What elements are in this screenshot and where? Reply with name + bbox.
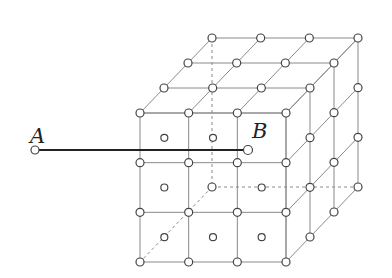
front-node xyxy=(282,109,290,117)
lattice-edge xyxy=(140,38,212,113)
cubic-lattice-figure xyxy=(0,0,392,278)
top-node xyxy=(257,84,265,92)
face-center-node xyxy=(258,234,265,241)
top-node xyxy=(257,34,265,42)
face-center-node xyxy=(161,134,168,141)
right-node xyxy=(354,84,362,92)
front-node xyxy=(185,208,193,216)
front-node xyxy=(185,159,193,167)
front-node xyxy=(233,159,241,167)
lattice-edge xyxy=(286,38,358,113)
hidden-edge xyxy=(140,187,212,262)
right-node xyxy=(330,158,338,166)
front-node xyxy=(136,159,144,167)
front-node xyxy=(185,109,193,117)
top-node xyxy=(233,59,241,67)
top-node xyxy=(160,84,168,92)
face-center-node xyxy=(161,234,168,241)
lattice-edge xyxy=(237,38,309,113)
right-node xyxy=(306,134,314,142)
right-node xyxy=(354,183,362,191)
face-center-node xyxy=(161,184,168,191)
top-node xyxy=(184,59,192,67)
point-b xyxy=(244,146,253,155)
top-node xyxy=(306,84,314,92)
label-b: B xyxy=(252,121,267,142)
lattice-edge xyxy=(286,88,358,163)
right-node xyxy=(306,233,314,241)
lattice-edge xyxy=(286,137,358,212)
top-node xyxy=(354,34,362,42)
top-node xyxy=(305,34,313,42)
lattice-diagram: A B xyxy=(0,0,392,278)
front-node xyxy=(282,258,290,266)
front-node xyxy=(136,258,144,266)
hidden-corner-node xyxy=(208,183,216,191)
right-node xyxy=(306,183,314,191)
front-node xyxy=(233,109,241,117)
label-a: A xyxy=(30,126,45,147)
top-node xyxy=(209,84,217,92)
right-node xyxy=(354,133,362,141)
front-node xyxy=(233,258,241,266)
lattice-edge xyxy=(189,38,261,113)
front-node xyxy=(233,208,241,216)
right-node xyxy=(330,109,338,117)
front-node xyxy=(282,208,290,216)
top-node xyxy=(330,59,338,67)
top-node xyxy=(208,34,216,42)
face-center-node xyxy=(210,134,217,141)
top-node xyxy=(281,59,289,67)
face-center-node xyxy=(258,184,265,191)
right-node xyxy=(330,208,338,216)
lattice-edge xyxy=(286,187,358,262)
front-node xyxy=(136,109,144,117)
front-node xyxy=(136,208,144,216)
face-center-node xyxy=(210,234,217,241)
front-node xyxy=(282,159,290,167)
front-node xyxy=(185,258,193,266)
